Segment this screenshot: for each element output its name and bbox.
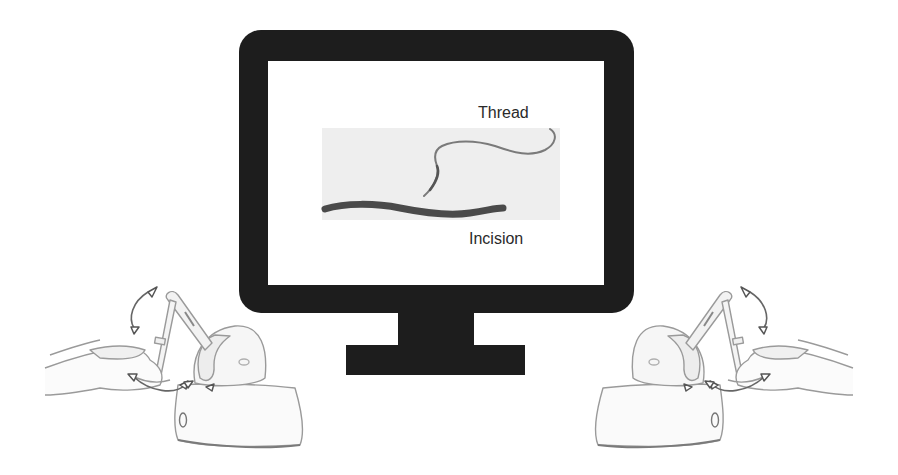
incision-label: Incision [469, 230, 523, 248]
right-haptic-device [595, 292, 853, 448]
figure: Thread Incision [0, 0, 898, 475]
thread-label: Thread [478, 104, 529, 122]
left-haptic-device [45, 292, 303, 448]
thread-stroke [424, 129, 555, 196]
thread-needle-end [430, 166, 438, 190]
incision-stroke [325, 204, 503, 214]
illustration-overlay [0, 0, 898, 475]
